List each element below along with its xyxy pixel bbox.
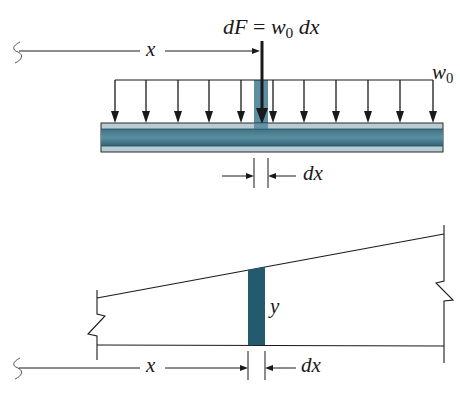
dx-arrowheads-top [246,173,276,179]
element-strip-bottom [248,267,265,345]
load-intensity-label: w0 [432,62,453,85]
y-label: y [270,296,279,317]
load-label-w: w [432,60,446,84]
force-label: dF = w0 dx [223,16,320,40]
x-dimension-bottom [14,358,248,379]
x-label-top: x [146,39,155,60]
force-label-w-sub: 0 [286,24,294,41]
arrowhead-icon [252,48,260,54]
force-label-w: w [271,14,286,39]
beam [101,123,443,152]
force-label-lhs: dF [223,14,247,39]
break-squiggle-icon [14,42,22,63]
load-arrowheads [111,111,437,123]
base-line [97,345,444,346]
diagram-svg [0,0,460,401]
top-panel [14,41,443,188]
x-label-bottom: x [146,355,155,376]
arrowhead-icon [240,365,248,371]
diagram-figure: dF = w0 dx x w0 dx y x dx [0,0,460,401]
right-break-line [436,225,453,363]
x-dimension-top [14,42,260,63]
left-break-line [88,290,105,360]
dx-label-top: dx [303,163,323,184]
force-label-equals: = [253,14,265,39]
dx-dimension-top [222,158,296,188]
distributed-load-arrows [115,80,433,114]
dx-label-bottom: dx [301,355,321,376]
force-label-rhs: dx [299,14,320,39]
sloped-boundary [97,234,444,298]
load-label-w-sub: 0 [446,70,453,86]
arrowhead-icon [265,365,273,371]
